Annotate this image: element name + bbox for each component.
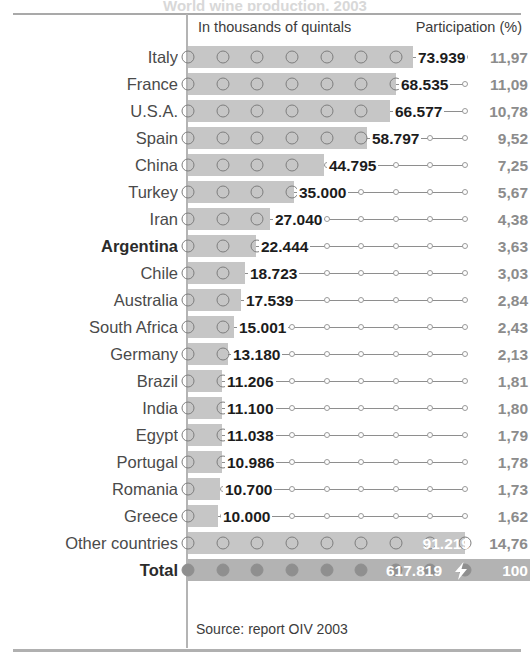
marker-dot [355, 564, 368, 577]
row-participation: 1,73 [472, 476, 528, 503]
marker-dot [217, 321, 230, 334]
marker-dot [286, 105, 299, 118]
row-participation: 2,84 [472, 287, 528, 314]
row-value: 66.577 [393, 98, 444, 125]
marker-dot [251, 105, 264, 118]
bottom-divider [13, 649, 521, 652]
marker-dot [324, 297, 330, 303]
marker-dot [321, 537, 334, 550]
marker-dot [182, 456, 195, 469]
row-plot: 58.7979,52 [188, 125, 530, 152]
chart-row: Other countries91.21914,76 [0, 530, 530, 557]
row-participation: 9,52 [472, 125, 528, 152]
marker-dot [462, 513, 468, 519]
row-value: 68.535 [399, 71, 450, 98]
marker-dot [182, 78, 195, 91]
row-label: Italy [0, 44, 178, 71]
row-value: 11.100 [225, 395, 276, 422]
marker-dot [217, 78, 230, 91]
chart-row: India11.1001,80 [0, 395, 530, 422]
marker-dot [217, 240, 230, 253]
row-participation: 2,13 [472, 341, 528, 368]
row-value: 13.180 [231, 341, 282, 368]
row-label: China [0, 152, 178, 179]
marker-dot [393, 216, 399, 222]
marker-dot [462, 297, 468, 303]
row-label: Romania [0, 476, 178, 503]
row-value: 11.038 [225, 422, 276, 449]
marker-dot [251, 537, 264, 550]
chart-row: South Africa15.0012,43 [0, 314, 530, 341]
marker-dot [286, 564, 299, 577]
chart-row: Argentina22.4443,63 [0, 233, 530, 260]
row-participation: 1,78 [472, 449, 528, 476]
marker-dot [182, 294, 195, 307]
row-plot: 22.4443,63 [188, 233, 530, 260]
marker-dot [393, 432, 399, 438]
marker-dot [182, 564, 195, 577]
row-value: 27.040 [273, 206, 324, 233]
marker-dot [321, 105, 334, 118]
marker-dot [462, 81, 468, 87]
row-participation: 7,25 [472, 152, 528, 179]
row-value: 10.000 [221, 503, 272, 530]
marker-dot [358, 486, 364, 492]
marker-dot [355, 537, 368, 550]
marker-dot [182, 213, 195, 226]
table-header: In thousands of quintals Participation (… [188, 16, 530, 42]
marker-dot [462, 459, 468, 465]
marker-dot [355, 132, 368, 145]
chart-row: Egypt11.0381,79 [0, 422, 530, 449]
marker-dot [462, 108, 468, 114]
marker-dot [427, 432, 433, 438]
marker-dot [462, 324, 468, 330]
marker-dot [182, 321, 195, 334]
marker-dot [358, 378, 364, 384]
marker-dot [393, 351, 399, 357]
row-value: 11.206 [225, 368, 276, 395]
marker-dot [217, 537, 230, 550]
marker-dot [324, 486, 330, 492]
row-participation: 5,67 [472, 179, 528, 206]
marker-dot [324, 513, 330, 519]
units-column-header: In thousands of quintals [198, 19, 351, 35]
row-label: Egypt [0, 422, 178, 449]
marker-dot [358, 513, 364, 519]
marker-dot [251, 51, 264, 64]
marker-dot [289, 486, 295, 492]
row-plot: 66.57710,78 [188, 98, 530, 125]
marker-dot [286, 51, 299, 64]
marker-dot [324, 324, 330, 330]
row-label: U.S.A. [0, 98, 178, 125]
row-value: 17.539 [244, 287, 295, 314]
marker-dot [251, 132, 264, 145]
marker-dot [393, 270, 399, 276]
row-value: 44.795 [327, 152, 378, 179]
marker-dot [217, 348, 230, 361]
marker-dot [182, 267, 195, 280]
marker-dot [182, 186, 195, 199]
participation-column-header: Participation (%) [416, 19, 522, 35]
row-value: 10.700 [223, 476, 274, 503]
wine-production-chart: World wine production, 2003 In thousands… [0, 0, 530, 666]
row-label: Greece [0, 503, 178, 530]
marker-dot [358, 270, 364, 276]
marker-dot [182, 402, 195, 415]
row-label: South Africa [0, 314, 178, 341]
marker-dot [324, 351, 330, 357]
row-participation: 3,03 [472, 260, 528, 287]
row-plot: 10.7001,73 [188, 476, 530, 503]
marker-dot [358, 243, 364, 249]
chart-row: Total617.819100 [0, 557, 530, 584]
row-plot: 35.0005,67 [188, 179, 530, 206]
marker-dot [217, 186, 230, 199]
row-plot: 68.53511,09 [188, 71, 530, 98]
marker-dot [182, 240, 195, 253]
marker-dot [321, 78, 334, 91]
row-value: 91.219 [421, 530, 472, 557]
marker-dot [393, 513, 399, 519]
chart-row: Italy73.93911,97 [0, 44, 530, 71]
marker-dot [390, 537, 403, 550]
chart-title-ghost: World wine production, 2003 [0, 0, 530, 11]
marker-dot [324, 378, 330, 384]
